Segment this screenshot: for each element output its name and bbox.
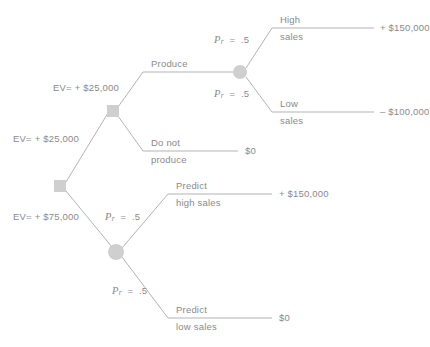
ev-label-root-lower: EV= + $75,000: [13, 211, 79, 222]
payoff-low-sales: – $100,000: [380, 106, 430, 117]
branch-label-low-sales-line2: sales: [280, 115, 303, 126]
payoff-high-sales: + $150,000: [380, 22, 430, 33]
produce-decision-node[interactable]: [107, 105, 119, 117]
branch-label-high-sales-line2: sales: [280, 31, 303, 42]
pr-value-predict-high: .5: [132, 211, 140, 222]
probability-predict-high: Pr = .5: [105, 211, 140, 224]
branch-label-produce: Produce: [151, 58, 188, 69]
root-decision-node[interactable]: [54, 180, 66, 192]
ev-label-upper-branch: EV= + $25,000: [53, 82, 119, 93]
pr-symbol: P: [112, 285, 119, 296]
sales-chance-node[interactable]: [233, 65, 247, 79]
payoff-predict-high-sales: + $150,000: [279, 188, 329, 199]
branch-label-predict-high-line2: high sales: [176, 197, 221, 208]
payoff-predict-low-sales: $0: [279, 312, 290, 323]
probability-predict-low: Pr = .5: [112, 285, 147, 298]
edge-low-sales: [246, 77, 374, 112]
payoff-do-not-produce: $0: [245, 145, 256, 156]
pr-equals-predict-low: =: [125, 285, 136, 296]
pr-equals-predict-high: =: [118, 211, 129, 222]
ev-label-root-upper: EV= + $25,000: [13, 133, 79, 144]
pr-subscript: r: [221, 37, 224, 46]
pr-subscript: r: [221, 91, 224, 100]
pr-subscript: r: [112, 214, 115, 223]
branch-label-do-not-produce-line1: Do not: [151, 137, 180, 148]
branch-label-do-not-produce-line2: produce: [151, 154, 187, 165]
pr-subscript: r: [119, 288, 122, 297]
branch-label-predict-low-line1: Predict: [176, 304, 207, 315]
predict-chance-node[interactable]: [108, 244, 124, 260]
branch-label-predict-high-line1: Predict: [176, 180, 207, 191]
probability-high-sales: Pr = .5: [214, 34, 249, 47]
pr-symbol: P: [214, 34, 221, 45]
pr-value-high: .5: [241, 34, 249, 45]
branch-label-predict-low-line2: low sales: [176, 321, 217, 332]
edge-root-to-produce-decision: [66, 113, 108, 182]
pr-symbol: P: [105, 211, 112, 222]
edge-high-sales: [246, 28, 374, 68]
pr-value-low: .5: [241, 88, 249, 99]
pr-equals-high: =: [227, 34, 238, 45]
branch-label-high-sales-line1: High: [280, 14, 300, 25]
pr-equals-low: =: [227, 88, 238, 99]
pr-value-predict-low: .5: [139, 285, 147, 296]
probability-low-sales: Pr = .5: [214, 88, 249, 101]
pr-symbol: P: [214, 88, 221, 99]
branch-label-low-sales-line1: Low: [280, 98, 298, 109]
